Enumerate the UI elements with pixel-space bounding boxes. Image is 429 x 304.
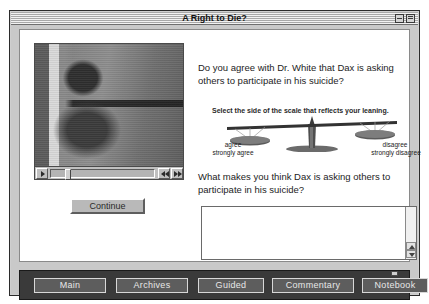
answer-textarea-container[interactable] xyxy=(201,206,417,260)
nav-button-main[interactable]: Main xyxy=(34,278,106,293)
video-seek-slider[interactable] xyxy=(50,169,155,178)
continue-button[interactable]: Continue xyxy=(70,198,145,214)
video-controller[interactable] xyxy=(34,167,184,180)
question-one-text: Do you agree with Dr. White that Dax is … xyxy=(198,61,416,87)
nav-button-guided[interactable]: Guided xyxy=(198,278,264,293)
scroll-up-icon[interactable] xyxy=(406,242,416,250)
nav-button-archives[interactable]: Archives xyxy=(116,278,188,293)
scale-label-disagree[interactable]: disagree xyxy=(365,141,425,149)
scale-label-strongly-disagree[interactable]: strongly disagree xyxy=(360,149,429,157)
video-seek-thumb[interactable] xyxy=(65,169,71,180)
nav-button-notebook[interactable]: Notebook xyxy=(362,278,428,293)
video-frame[interactable] xyxy=(34,43,184,167)
answer-scrollbar[interactable] xyxy=(405,207,416,259)
minimize-icon[interactable] xyxy=(395,14,404,23)
play-icon[interactable] xyxy=(36,168,48,179)
notebook-indicator-icon xyxy=(391,271,398,276)
nav-button-commentary[interactable]: Commentary xyxy=(272,278,354,293)
video-still-image xyxy=(35,44,183,166)
scroll-down-icon[interactable] xyxy=(406,250,416,258)
application-window: A Right to Die? Continu xyxy=(9,10,420,296)
question-two-text: What makes you think Dax is asking other… xyxy=(198,170,416,196)
scale-label-agree[interactable]: agree xyxy=(203,141,263,149)
title-bar[interactable]: A Right to Die? xyxy=(11,12,418,25)
bottom-navigation-bar: Main Archives Guided Commentary Notebook xyxy=(19,270,410,300)
content-page: Continue Do you agree with Dr. White tha… xyxy=(19,29,410,262)
maximize-icon[interactable] xyxy=(406,14,415,23)
step-backward-icon[interactable] xyxy=(158,168,170,179)
scale-label-strongly-agree[interactable]: strongly agree xyxy=(197,149,269,157)
answer-input[interactable] xyxy=(204,208,403,258)
window-title: A Right to Die? xyxy=(176,13,253,24)
video-player[interactable] xyxy=(34,43,184,181)
window-client-area: Continue Do you agree with Dr. White tha… xyxy=(11,25,418,294)
step-forward-icon[interactable] xyxy=(171,168,183,179)
